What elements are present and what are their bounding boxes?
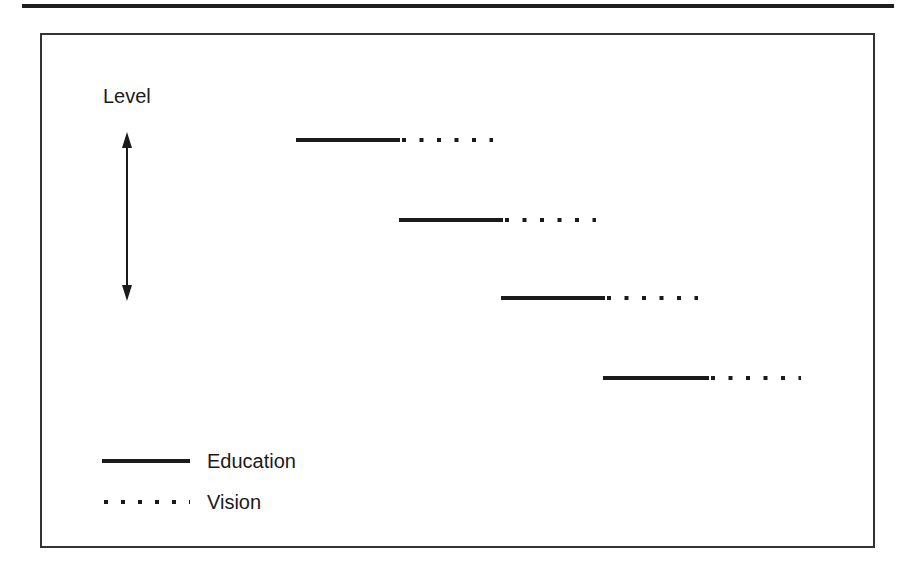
diagram-canvas: [0, 0, 914, 584]
level-arrow-icon: [122, 132, 132, 301]
stage-lines: [296, 140, 801, 378]
legend-vision-label: Vision: [207, 492, 261, 512]
legend-education-label: Education: [207, 451, 296, 471]
